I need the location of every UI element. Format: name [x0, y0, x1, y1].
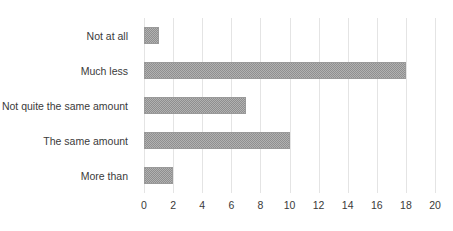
- bar: [144, 97, 246, 114]
- plot-area: 02468101214161820: [144, 18, 435, 193]
- bar: [144, 132, 290, 149]
- y-axis-label: Not quite the same amount: [0, 88, 136, 123]
- x-axis: 02468101214161820: [144, 193, 435, 217]
- y-axis-label: The same amount: [0, 123, 136, 158]
- bar-row: [144, 18, 435, 53]
- x-axis-tick-label: 4: [199, 199, 205, 211]
- bar-row: [144, 123, 435, 158]
- x-axis-tick-label: 2: [170, 199, 176, 211]
- bar: [144, 167, 173, 184]
- y-axis-label: Not at all: [0, 18, 136, 53]
- bar-row: [144, 158, 435, 193]
- x-axis-tick-label: 16: [371, 199, 383, 211]
- gridline: [435, 18, 436, 193]
- x-axis-tick-label: 12: [313, 199, 325, 211]
- bar-row: [144, 53, 435, 88]
- bar-row: [144, 88, 435, 123]
- x-axis-tick-label: 0: [141, 199, 147, 211]
- bar: [144, 27, 159, 44]
- x-axis-tick-label: 10: [284, 199, 296, 211]
- y-axis-label: Much less: [0, 53, 136, 88]
- bar: [144, 62, 406, 79]
- x-axis-tick-label: 18: [400, 199, 412, 211]
- x-axis-tick-label: 20: [429, 199, 441, 211]
- bar-chart: Not at allMuch lessNot quite the same am…: [0, 0, 453, 231]
- y-axis-label: More than: [0, 158, 136, 193]
- x-axis-tick-label: 14: [342, 199, 354, 211]
- x-axis-tick-label: 8: [257, 199, 263, 211]
- x-axis-tick-label: 6: [228, 199, 234, 211]
